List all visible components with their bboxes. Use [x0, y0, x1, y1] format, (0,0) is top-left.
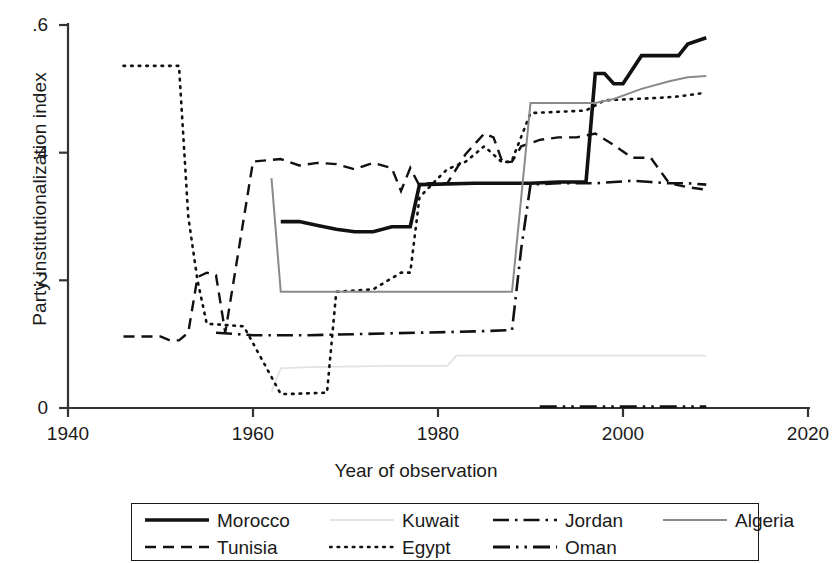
legend-swatch-egypt	[329, 540, 395, 554]
legend-item-algeria[interactable]: Algeria	[662, 507, 794, 533]
series-line-egypt	[124, 66, 707, 394]
legend-item-jordan[interactable]: Jordan	[492, 507, 623, 533]
legend-label: Egypt	[402, 538, 451, 557]
plot-area	[0, 0, 832, 563]
legend-item-morocco[interactable]: Morocco	[144, 507, 290, 533]
legend-swatch-oman	[492, 540, 558, 554]
legend-label: Oman	[565, 538, 617, 557]
chart-figure: Party institutionalization index Year of…	[0, 0, 832, 563]
legend-item-egypt[interactable]: Egypt	[329, 534, 451, 560]
legend-label: Tunisia	[217, 538, 278, 557]
legend-swatch-jordan	[492, 513, 558, 527]
chart-legend: MoroccoKuwaitJordanAlgeriaTunisiaEgyptOm…	[131, 503, 759, 561]
legend-swatch-morocco	[144, 513, 210, 527]
legend-swatch-algeria	[662, 513, 728, 527]
legend-swatch-tunisia	[144, 540, 210, 554]
legend-label: Jordan	[565, 511, 623, 530]
legend-item-kuwait[interactable]: Kuwait	[329, 507, 459, 533]
legend-label: Kuwait	[402, 511, 459, 530]
legend-label: Algeria	[735, 511, 794, 530]
legend-item-oman[interactable]: Oman	[492, 534, 617, 560]
legend-label: Morocco	[217, 511, 290, 530]
series-line-kuwait	[272, 356, 707, 392]
series-line-morocco	[281, 38, 707, 232]
legend-swatch-kuwait	[329, 513, 395, 527]
legend-item-tunisia[interactable]: Tunisia	[144, 534, 278, 560]
series-line-jordan	[216, 181, 706, 335]
